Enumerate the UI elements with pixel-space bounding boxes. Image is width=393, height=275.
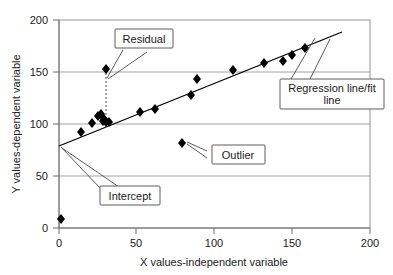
data-point xyxy=(136,107,144,117)
annotation-regression-line[interactable]: Regression line/fit line xyxy=(280,79,384,109)
annotation-intercept[interactable]: Intercept xyxy=(100,186,160,205)
y-tick-label-100: 100 xyxy=(30,118,48,130)
annotation-residual-label: Residual xyxy=(123,33,166,45)
x-tick-label-200: 200 xyxy=(361,237,379,249)
data-point xyxy=(260,58,268,68)
y-tick-label-0: 0 xyxy=(42,222,48,234)
x-axis-ticks xyxy=(59,228,370,234)
data-point xyxy=(102,64,110,74)
x-tick-label-100: 100 xyxy=(205,237,223,249)
annotation-intercept-label: Intercept xyxy=(109,190,152,202)
y-axis-title: Y values-dependent variable xyxy=(10,54,22,193)
scatter-plot-figure: 200 150 100 50 0 0 50 100 150 200 X valu… xyxy=(0,0,393,275)
annotation-regression-label-line1: Regression line/fit xyxy=(288,82,375,94)
x-tick-label-150: 150 xyxy=(283,237,301,249)
data-point xyxy=(178,138,186,148)
data-point xyxy=(229,65,237,75)
data-point xyxy=(301,43,309,53)
annotation-residual[interactable]: Residual xyxy=(115,29,173,48)
data-point xyxy=(193,74,201,84)
x-tick-label-50: 50 xyxy=(130,237,142,249)
data-point xyxy=(88,118,96,128)
annotation-outlier[interactable]: Outlier xyxy=(212,145,265,164)
x-axis-title: X values-independent variable xyxy=(140,256,288,268)
annotation-regression-label-line2: line xyxy=(323,94,340,106)
chart-canvas: 200 150 100 50 0 0 50 100 150 200 X valu… xyxy=(0,0,393,275)
y-tick-label-50: 50 xyxy=(36,170,48,182)
x-tick-label-0: 0 xyxy=(56,237,62,249)
annotation-outlier-label: Outlier xyxy=(222,149,255,161)
data-point xyxy=(57,214,65,224)
y-axis-ticks xyxy=(53,20,59,228)
y-tick-label-200: 200 xyxy=(30,14,48,26)
y-tick-label-150: 150 xyxy=(30,66,48,78)
data-point-markers xyxy=(57,43,309,224)
